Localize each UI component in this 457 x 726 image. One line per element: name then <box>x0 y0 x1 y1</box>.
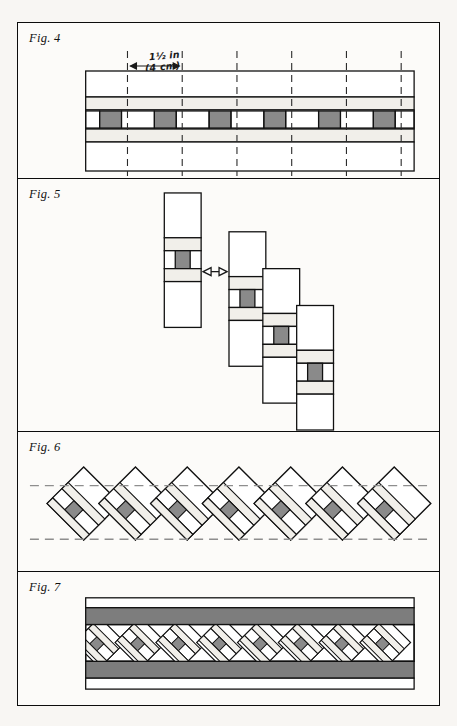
diagram-page: Fig. 4 1½ in (4 cm) <box>0 0 457 726</box>
fig-5-segment-4 <box>297 305 334 430</box>
fig-6-diamond-row <box>47 467 431 540</box>
panel-fig-4: Fig. 4 1½ in (4 cm) <box>18 23 439 178</box>
panel-fig-7: Fig. 7 <box>18 571 439 705</box>
fig-6-drawing <box>18 432 439 571</box>
fig-5-segment-1 <box>164 193 201 327</box>
fig-5-offset-arrow <box>203 268 227 276</box>
fig-4-measure-arrow <box>130 63 179 69</box>
fig-5-segment-2 <box>229 232 266 366</box>
fig-7-drawing <box>18 572 439 705</box>
fig-5-drawing <box>18 179 439 431</box>
panel-fig-6: Fig. 6 <box>18 431 439 571</box>
panel-fig-5: Fig. 5 <box>18 178 439 431</box>
fig-4-strip-set <box>86 71 414 171</box>
fig-4-drawing <box>18 23 439 178</box>
fig-5-segment-3 <box>263 269 300 403</box>
figure-plate: Fig. 4 1½ in (4 cm) <box>17 22 440 706</box>
